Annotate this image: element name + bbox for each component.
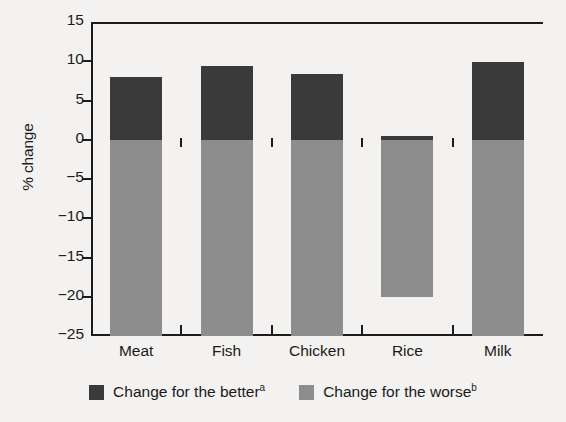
legend-label-better: Change for the bettera — [113, 383, 265, 401]
bar-positive-milk — [472, 62, 524, 140]
legend-item-worse[interactable]: Change for the worseb — [299, 383, 477, 401]
bar-chart-figure: % change 151050−5−10−15−20−25 MeatFishCh… — [0, 0, 566, 422]
y-tick-label: 0 — [34, 129, 84, 147]
bar-negative-milk — [472, 140, 524, 336]
x-tick-bottom-rice — [361, 325, 363, 334]
bar-positive-fish — [201, 66, 253, 140]
y-tick-label: −25 — [34, 325, 84, 343]
x-tick-bottom-milk — [452, 325, 454, 334]
bar-positive-chicken — [291, 74, 343, 140]
x-tick-top-chicken — [271, 138, 273, 147]
y-tick-label: −10 — [34, 207, 84, 225]
x-tick-bottom-fish — [180, 325, 182, 334]
x-tick-top-milk — [452, 138, 454, 147]
legend-item-better[interactable]: Change for the bettera — [89, 383, 265, 401]
x-label-milk: Milk — [438, 342, 558, 360]
y-tick-label: 5 — [34, 90, 84, 108]
bar-negative-chicken — [291, 140, 343, 336]
x-tick-top-rice — [361, 138, 363, 147]
y-tick-label: 10 — [34, 50, 84, 68]
bar-negative-meat — [110, 140, 162, 336]
legend-label-worse: Change for the worseb — [323, 383, 477, 401]
y-tick-label: 15 — [34, 11, 84, 29]
legend-footnote-marker-a: a — [260, 382, 266, 393]
legend-footnote-marker-b: b — [471, 382, 477, 393]
y-axis-line — [91, 22, 93, 336]
bar-negative-rice — [381, 140, 433, 297]
y-tick-label: −20 — [34, 286, 84, 304]
bar-positive-meat — [110, 77, 162, 140]
y-tick-label: −15 — [34, 247, 84, 265]
chart-legend: Change for the betteraChange for the wor… — [0, 383, 566, 401]
plot-area: 151050−5−10−15−20−25 — [91, 22, 543, 336]
legend-swatch-icon-worse — [299, 385, 314, 400]
x-tick-bottom-chicken — [271, 325, 273, 334]
x-tick-top-fish — [180, 138, 182, 147]
bar-negative-fish — [201, 140, 253, 336]
legend-swatch-icon-better — [89, 385, 104, 400]
zero-baseline — [91, 22, 543, 24]
y-tick-label: −5 — [34, 168, 84, 186]
